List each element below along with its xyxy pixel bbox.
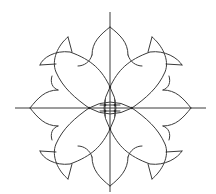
axis-node <box>131 107 133 109</box>
axis-node <box>109 86 111 88</box>
center-dot <box>114 104 117 107</box>
bottom-left-petal-outer <box>40 129 110 164</box>
axis-node <box>88 107 90 109</box>
top-left-barb <box>40 37 72 65</box>
left-bottom-connector <box>51 126 58 140</box>
right-bottom-connector <box>163 126 170 140</box>
axis-node <box>109 128 111 130</box>
left-top-connector <box>51 76 58 90</box>
rosette-svg <box>0 0 216 194</box>
bottom-right-connector <box>128 146 142 157</box>
bottom-left-connector <box>78 146 92 157</box>
center-dot <box>104 104 107 107</box>
center-dot <box>114 110 117 113</box>
bottom-right-petal-outer <box>110 129 182 164</box>
bottom-left-petal-inner <box>54 108 89 179</box>
top-left-petal-inner <box>54 37 89 108</box>
top-right-barb <box>148 37 182 65</box>
right-top-connector <box>163 76 170 90</box>
center-dot <box>104 110 107 113</box>
top-left-petal-outer <box>40 52 110 87</box>
rosette-diagram <box>0 0 216 194</box>
bottom-right-barb <box>148 151 182 179</box>
top-right-petal-outer <box>110 52 182 87</box>
bottom-left-barb <box>40 151 72 179</box>
